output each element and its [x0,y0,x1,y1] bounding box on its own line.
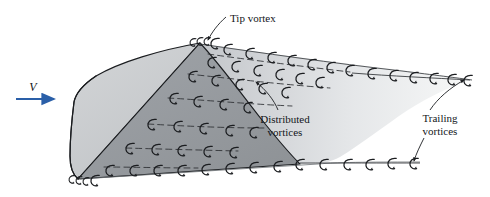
trailing-vortices-leader-lower [414,138,424,161]
diagram-canvas: V Tip vortex Distributed vortices Traili… [0,0,490,197]
distributed-vortices-label-line1: Distributed [260,113,310,125]
trailing-vortices-label-line2: vortices [423,125,458,137]
velocity-label: V [29,80,38,94]
trailing-vortices-label-line1: Trailing [422,112,458,124]
distributed-vortices-label-line2: vortices [268,126,303,138]
wing-vortex-figure: V Tip vortex Distributed vortices Traili… [0,0,490,197]
tip-vortex-leader [208,17,226,40]
tip-vortex-label: Tip vortex [230,12,276,24]
